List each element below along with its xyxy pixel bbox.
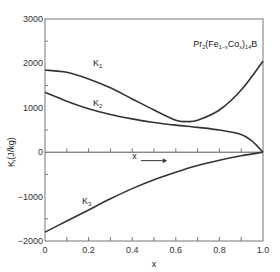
x-tick-label: 1.0 xyxy=(257,245,270,255)
arrow-label: x xyxy=(132,151,137,161)
labels: K1K2K3Pr2(Fe1−xCox)14BxxKi(J/kg) xyxy=(6,39,257,269)
y-tick-label: −2000 xyxy=(18,236,43,246)
x-axis-title: x xyxy=(152,259,157,269)
y-tick-label: 0 xyxy=(38,147,43,157)
axis-ticks: −2000−1000010002000300000.20.40.60.81.0 xyxy=(18,14,270,255)
x-tick-label: 0.4 xyxy=(126,245,139,255)
y-tick-label: 2000 xyxy=(23,58,43,68)
y-tick-label: 3000 xyxy=(23,14,43,24)
arrow-head-icon xyxy=(163,158,167,163)
x-tick-label: 0 xyxy=(42,245,47,255)
x-tick-label: 0.2 xyxy=(82,245,95,255)
label-k2: K2 xyxy=(93,98,103,109)
y-tick-label: 1000 xyxy=(23,103,43,113)
label-k1: K1 xyxy=(93,58,103,69)
curve-k3 xyxy=(45,152,263,232)
chart: −2000−1000010002000300000.20.40.60.81.0 … xyxy=(0,0,280,272)
x-tick-label: 0.6 xyxy=(170,245,183,255)
x-tick-label: 0.8 xyxy=(213,245,226,255)
formula-annotation: Pr2(Fe1−xCox)14B xyxy=(193,39,257,50)
y-axis-title: Ki(J/kg) xyxy=(6,137,17,167)
plot-frame xyxy=(45,19,263,241)
curve-k1 xyxy=(45,61,263,121)
label-k3: K3 xyxy=(82,196,92,207)
curves xyxy=(45,61,263,232)
y-tick-label: −1000 xyxy=(18,192,43,202)
plot-border xyxy=(45,19,263,241)
